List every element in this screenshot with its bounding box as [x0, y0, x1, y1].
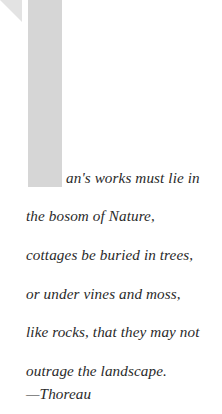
- quote-body: an's works must lie in the bosom of Natu…: [0, 0, 222, 414]
- quote-line: outrage the landscape.: [26, 363, 167, 378]
- quote-line: like rocks, that they may not: [26, 324, 200, 339]
- quote-attribution: —Thoreau: [26, 386, 91, 401]
- quote-line: cottages be buried in trees,: [26, 247, 193, 262]
- quote-line: or under vines and moss,: [26, 286, 181, 301]
- quote-line: an's works must lie in: [66, 170, 200, 185]
- quote-line: the bosom of Nature,: [26, 208, 155, 223]
- quote-page: M an's works must lie in the bosom of Na…: [0, 0, 222, 414]
